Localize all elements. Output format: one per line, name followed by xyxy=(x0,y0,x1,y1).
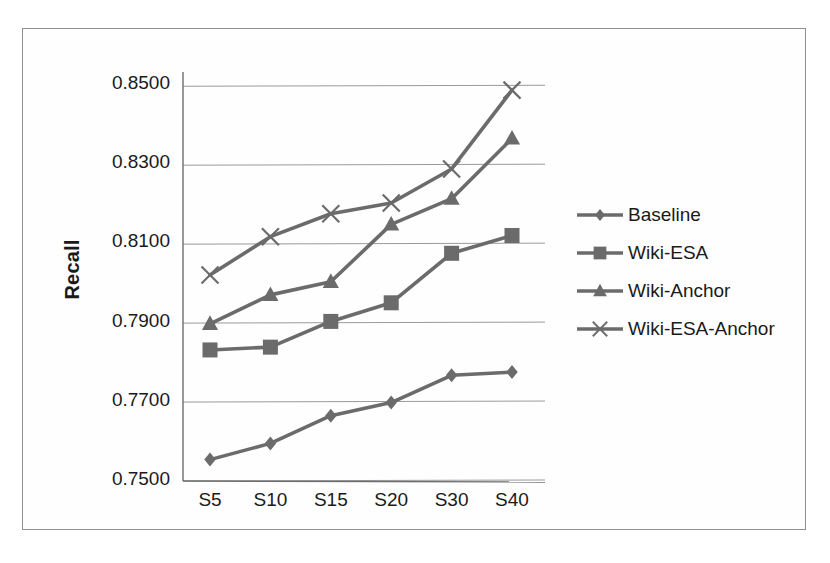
x-tick-label: S30 xyxy=(435,489,469,511)
axis-lines xyxy=(183,72,545,482)
legend-label: Wiki-ESA xyxy=(624,242,708,264)
recall-line-chart: Recall 0.75000.77000.79000.81000.83000.8… xyxy=(0,0,830,563)
chart-legend: BaselineWiki-ESAWiki-AnchorWiki-ESA-Anch… xyxy=(576,196,806,348)
legend-item-wiki-anchor[interactable]: Wiki-Anchor xyxy=(576,272,806,310)
series-wiki-anchor xyxy=(202,130,520,330)
diamond-marker xyxy=(506,365,517,379)
legend-item-baseline[interactable]: Baseline xyxy=(576,196,806,234)
diamond-marker xyxy=(385,396,396,410)
diamond-marker xyxy=(595,209,605,221)
x-tick-label: S15 xyxy=(314,489,348,511)
square-marker xyxy=(323,314,338,329)
square-icon xyxy=(576,243,624,263)
diamond-marker xyxy=(325,409,336,423)
gridlines xyxy=(183,85,545,481)
diamond-icon xyxy=(576,205,624,225)
square-marker xyxy=(384,295,399,310)
cross-marker xyxy=(262,228,279,245)
x-axis-tick-labels: S5S10S15S20S30S40 xyxy=(0,489,830,519)
legend-label: Baseline xyxy=(624,204,701,226)
x-tick-label: S5 xyxy=(198,489,221,511)
x-tick-label: S20 xyxy=(374,489,408,511)
x-tick-label: S10 xyxy=(253,489,287,511)
cross-marker xyxy=(202,267,219,284)
legend-label: Wiki-ESA-Anchor xyxy=(624,318,775,340)
legend-item-wiki-esa[interactable]: Wiki-ESA xyxy=(576,234,806,272)
series-baseline xyxy=(204,365,517,467)
legend-item-wiki-esa-anchor[interactable]: Wiki-ESA-Anchor xyxy=(576,310,806,348)
gridline xyxy=(183,85,545,86)
diamond-marker xyxy=(204,453,215,467)
gridline xyxy=(183,401,545,402)
series-layer xyxy=(202,82,521,467)
square-marker xyxy=(263,340,278,355)
triangle-marker xyxy=(504,130,520,145)
square-marker xyxy=(444,246,459,261)
series-line xyxy=(210,138,512,323)
square-marker xyxy=(505,228,520,243)
series-line xyxy=(210,372,512,460)
legend-label: Wiki-Anchor xyxy=(624,280,730,302)
series-wiki-esa xyxy=(203,228,520,357)
cross-icon xyxy=(576,319,624,339)
square-marker xyxy=(203,342,218,357)
triangle-icon xyxy=(576,281,624,301)
diamond-marker xyxy=(265,436,276,450)
x-tick-label: S40 xyxy=(495,489,529,511)
cross-marker xyxy=(504,82,521,99)
diamond-marker xyxy=(446,368,457,382)
gridline xyxy=(183,322,545,323)
gridline xyxy=(183,164,545,165)
cross-marker xyxy=(443,160,460,177)
square-marker xyxy=(594,247,607,260)
